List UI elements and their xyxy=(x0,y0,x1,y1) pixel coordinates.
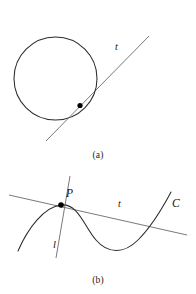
curve-c xyxy=(18,192,171,251)
caption-b: (b) xyxy=(0,275,196,285)
tangent-line-a xyxy=(46,36,149,141)
tangency-point-marker xyxy=(77,103,82,108)
tangent-label-a: t xyxy=(115,42,118,52)
tangent-line-b xyxy=(9,195,187,235)
line-label-l: l xyxy=(53,240,56,251)
circle-shape xyxy=(14,37,97,120)
tangent-label-b: t xyxy=(118,199,121,209)
curve-label-c: C xyxy=(172,198,180,210)
figure-container: t (a) P t l C (b) xyxy=(0,0,196,294)
caption-a: (a) xyxy=(0,150,196,160)
point-label-p: P xyxy=(66,188,73,200)
panel-a-graphics xyxy=(14,36,149,141)
panel-b-graphics xyxy=(9,176,187,258)
figure-svg xyxy=(0,0,196,294)
point-p-marker xyxy=(58,202,64,208)
